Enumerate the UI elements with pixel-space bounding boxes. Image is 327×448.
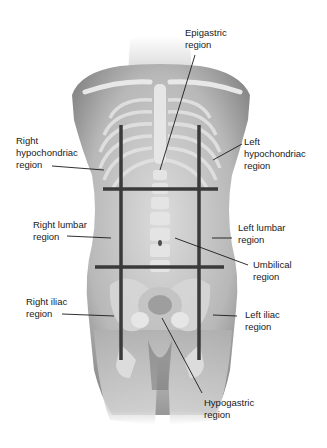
abdominal-regions-figure: Epigastric region Right hypochondriac re…: [0, 0, 327, 448]
label-left-lumbar-region: Left lumbar region: [238, 222, 286, 246]
label-right-lumbar-region: Right lumbar region: [33, 219, 87, 243]
spine: [150, 170, 170, 272]
label-left-iliac-region: Left iliac region: [245, 309, 280, 333]
label-right-iliac-region: Right iliac region: [26, 296, 67, 320]
label-umbilical-region: Umbilical region: [253, 259, 292, 283]
label-left-hypochondriac-region: Left hypochondriac region: [244, 136, 306, 172]
label-hypogastric-region: Hypogastric region: [204, 397, 254, 421]
label-epigastric-region: Epigastric region: [185, 27, 227, 51]
label-right-hypochondriac-region: Right hypochondriac region: [16, 135, 78, 171]
